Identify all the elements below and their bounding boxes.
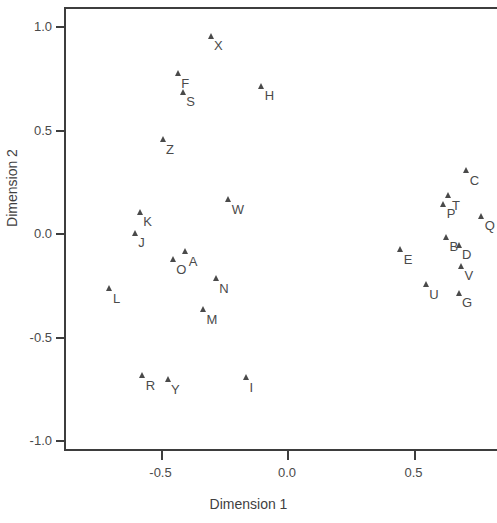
x-axis-tick-label: -0.5 <box>149 466 171 479</box>
triangle-marker-icon <box>258 83 264 89</box>
x-axis-tick-label: 0.5 <box>404 466 422 479</box>
data-point-label: I <box>250 381 254 394</box>
x-axis-tick <box>414 451 416 460</box>
y-axis-tick-label: -0.5 <box>30 330 52 343</box>
y-axis-tick <box>56 26 64 28</box>
y-axis-tick <box>56 440 64 442</box>
x-axis-tick <box>161 451 163 460</box>
triangle-marker-icon <box>213 275 219 281</box>
data-point-label: A <box>189 255 198 268</box>
data-point-label: U <box>429 288 438 301</box>
triangle-marker-icon <box>423 281 429 287</box>
y-axis-tick-label: 0.0 <box>34 227 52 240</box>
y-axis-tick-label: -1.0 <box>30 434 52 447</box>
triangle-marker-icon <box>463 167 469 173</box>
data-point-label: L <box>113 292 120 305</box>
triangle-marker-icon <box>137 209 143 215</box>
triangle-marker-icon <box>106 285 112 291</box>
triangle-marker-icon <box>208 33 214 39</box>
triangle-marker-icon <box>139 372 145 378</box>
scatter-plot-figure: XFSHZWKJAONLMRYICTPQBDEVUG 1.00.50.0-0.5… <box>0 0 497 523</box>
triangle-marker-icon <box>225 196 231 202</box>
data-point-label: R <box>146 379 155 392</box>
data-point-label: P <box>447 207 456 220</box>
data-point-label: J <box>138 236 145 249</box>
x-axis-label: Dimension 1 <box>0 496 497 512</box>
data-point-label: N <box>219 282 228 295</box>
triangle-marker-icon <box>243 374 249 380</box>
data-point-label: Z <box>166 143 174 156</box>
data-point-label: G <box>462 296 472 309</box>
data-point-label: H <box>265 89 274 102</box>
triangle-marker-icon <box>200 306 206 312</box>
data-point-label: Y <box>171 383 180 396</box>
triangle-marker-icon <box>175 70 181 76</box>
plot-data-area: XFSHZWKJAONLMRYICTPQBDEVUG <box>64 7 497 451</box>
triangle-marker-icon <box>456 242 462 248</box>
triangle-marker-icon <box>458 263 464 269</box>
triangle-marker-icon <box>170 256 176 262</box>
y-axis-tick-label: 1.0 <box>34 20 52 33</box>
data-point-label: X <box>214 39 223 52</box>
data-point-label: F <box>181 77 189 90</box>
triangle-marker-icon <box>456 290 462 296</box>
triangle-marker-icon <box>180 89 186 95</box>
data-point-label: O <box>176 263 186 276</box>
y-axis-tick-label: 0.5 <box>34 123 52 136</box>
data-point-label: C <box>470 174 479 187</box>
y-axis-tick <box>56 130 64 132</box>
data-point-label: M <box>207 313 218 326</box>
data-point-label: W <box>232 203 244 216</box>
data-point-label: S <box>186 95 195 108</box>
data-point-label: K <box>143 215 152 228</box>
data-point-label: V <box>465 269 474 282</box>
y-axis-label: Dimension 2 <box>4 128 20 248</box>
triangle-marker-icon <box>165 376 171 382</box>
triangle-marker-icon <box>445 192 451 198</box>
triangle-marker-icon <box>182 248 188 254</box>
triangle-marker-icon <box>443 234 449 240</box>
triangle-marker-icon <box>478 213 484 219</box>
data-point-label: D <box>462 248 471 261</box>
triangle-marker-icon <box>132 230 138 236</box>
y-axis-tick <box>56 337 64 339</box>
triangle-marker-icon <box>160 136 166 142</box>
triangle-marker-icon <box>397 246 403 252</box>
triangle-marker-icon <box>440 201 446 207</box>
x-axis: -0.50.00.5 <box>64 451 497 491</box>
y-axis-tick <box>56 233 64 235</box>
x-axis-tick-label: 0.0 <box>278 466 296 479</box>
x-axis-tick <box>287 451 289 460</box>
data-point-label: Q <box>485 219 495 232</box>
data-point-label: E <box>404 253 413 266</box>
